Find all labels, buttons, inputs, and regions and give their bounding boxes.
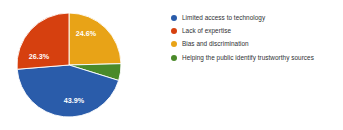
- pie-chart-figure: 43.9%26.3%24.6% Limited access to techno…: [0, 0, 343, 130]
- circle-marker-icon: [171, 15, 177, 21]
- legend-item-label: Limited access to technology: [182, 14, 265, 22]
- legend-item-label: Lack of expertise: [182, 27, 231, 35]
- legend-item[interactable]: Lack of expertise: [171, 25, 343, 36]
- pie-slice-label: 26.3%: [29, 52, 50, 61]
- pie-chart-svg: 43.9%26.3%24.6%: [0, 0, 150, 130]
- pie-slice-label: 24.6%: [76, 29, 97, 38]
- pie-slice[interactable]: [69, 13, 121, 65]
- circle-marker-icon: [171, 41, 177, 47]
- pie-plot-area: 43.9%26.3%24.6%: [0, 0, 150, 130]
- legend-item[interactable]: Limited access to technology: [171, 12, 343, 23]
- circle-marker-icon: [171, 55, 177, 61]
- legend-item[interactable]: Bias and discrimination: [171, 39, 343, 50]
- circle-marker-icon: [171, 28, 177, 34]
- pie-slice-label: 43.9%: [64, 96, 85, 105]
- legend-item-label: Bias and discrimination: [182, 40, 249, 48]
- legend-item[interactable]: Helping the public identify trustworthy …: [171, 52, 343, 63]
- legend-item-label: Helping the public identify trustworthy …: [182, 54, 314, 62]
- chart-legend: Limited access to technologyLack of expe…: [171, 12, 343, 63]
